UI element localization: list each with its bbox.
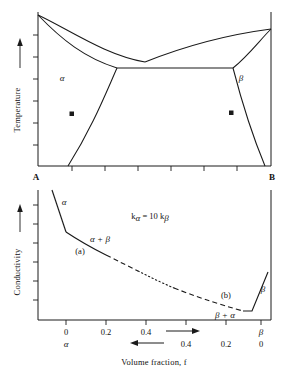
curve-dotted-segment	[138, 271, 174, 288]
endpoint-label-a: A	[33, 172, 40, 182]
top-panel-group: α β A B Temperature	[12, 12, 275, 182]
solvus-alpha-curve	[68, 68, 117, 166]
left-arrow-icon	[130, 340, 164, 346]
temperature-axis-label-group: Temperature	[12, 38, 23, 133]
x-axis-top-row-labels: 0 0.2 0.4 β	[64, 327, 264, 337]
beta-branch-label: β	[260, 284, 266, 294]
xtick-top-1: 0.2	[101, 327, 112, 337]
bottom-x-ticks	[66, 320, 261, 325]
xtick-bottom-0: α	[64, 339, 69, 349]
figure-container: α β A B Temperature	[0, 0, 287, 377]
volume-fraction-text: Volume fraction, f	[121, 357, 187, 367]
bottom-panel-group: α α + β (a) (b) β + α β kα = 10 kβ 0 0.2…	[12, 190, 271, 367]
alpha-branch-label: α	[62, 197, 67, 207]
alpha-solvus-point	[70, 112, 75, 117]
bottom-y-ticks	[33, 205, 38, 300]
temperature-up-arrow-icon	[17, 38, 23, 68]
beta-solvus-point	[229, 111, 234, 116]
conductivity-up-arrow-icon	[17, 204, 23, 232]
conductivity-axis-label-group: Conductivity	[12, 204, 23, 295]
volume-fraction-axis-label: Volume fraction, f	[121, 357, 187, 367]
conductivity-axis-label: Conductivity	[12, 248, 22, 295]
beta-region-label: β	[238, 73, 244, 83]
conductivity-ratio-annotation: kα = 10 kβ	[131, 211, 169, 223]
xtick-bottom-5: 0	[259, 339, 263, 349]
x-axis-bottom-row-labels: α 0.4 0.2 0	[64, 339, 263, 349]
beta-plus-alpha-label: β + α	[214, 310, 235, 320]
curve-a-label: (a)	[75, 246, 85, 256]
top-y-ticks	[33, 35, 38, 145]
equals-ten: = 10	[140, 211, 160, 221]
xtick-bottom-4: 0.2	[221, 339, 232, 349]
temperature-axis-label: Temperature	[12, 87, 22, 132]
solidus-right-curve	[233, 29, 271, 68]
alpha-plus-beta-label: α + β	[90, 234, 110, 244]
figure-svg: α β A B Temperature	[0, 0, 287, 377]
curve-b-dashed-segment	[174, 288, 243, 311]
xtick-bottom-3: 0.4	[181, 339, 192, 349]
xtick-top-5: β	[258, 327, 264, 337]
liquidus-left-curve	[38, 15, 145, 62]
solidus-left-curve	[38, 15, 117, 68]
endpoint-label-b: B	[269, 172, 275, 182]
curve-b-label: (b)	[221, 290, 231, 300]
svg-text:kα = 10 kβ: kα = 10 kβ	[131, 211, 169, 223]
xtick-top-0: 0	[64, 327, 68, 337]
alpha-region-label: α	[60, 73, 65, 83]
liquidus-right-curve	[145, 29, 271, 62]
beta-subscript: β	[163, 213, 169, 223]
top-x-ticks	[72, 166, 237, 171]
curve-a-dashed-segment	[106, 255, 138, 271]
right-arrow-icon	[166, 328, 200, 334]
xtick-top-2: 0.4	[141, 327, 152, 337]
